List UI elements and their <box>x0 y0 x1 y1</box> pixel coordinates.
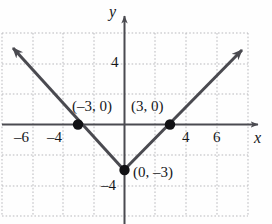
y-tick-label-4: 4 <box>111 55 119 70</box>
x-tick-label-6: 6 <box>213 130 221 145</box>
x-axis-name: x <box>254 130 261 146</box>
annotation-right-root: (3, 0) <box>131 99 164 114</box>
point-right-root <box>165 119 175 129</box>
point-vertex <box>119 165 129 175</box>
x-tick-label-minus6: –6 <box>14 130 29 145</box>
x-tick-label-4: 4 <box>182 130 190 145</box>
graph-figure: –6 –4 4 6 4 –4 y x (–3, 0) (3, 0) (0, –3… <box>0 0 272 224</box>
annotation-vertex: (0, –3) <box>133 165 173 180</box>
point-left-root <box>73 119 83 129</box>
y-axis-name: y <box>109 4 116 20</box>
y-tick-label-minus4: –4 <box>101 178 116 193</box>
annotation-left-root: (–3, 0) <box>72 99 112 114</box>
x-tick-label-minus4: –4 <box>47 130 62 145</box>
